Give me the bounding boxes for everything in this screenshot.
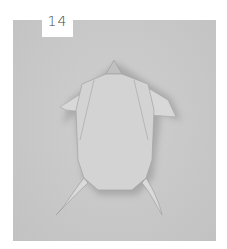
origami-turtle-model	[0, 0, 227, 249]
shell-body	[76, 74, 154, 190]
step-number-label: 14	[42, 5, 73, 37]
right-back-flipper	[142, 178, 162, 215]
step-number: 14	[48, 13, 68, 29]
left-back-flipper	[56, 178, 88, 215]
